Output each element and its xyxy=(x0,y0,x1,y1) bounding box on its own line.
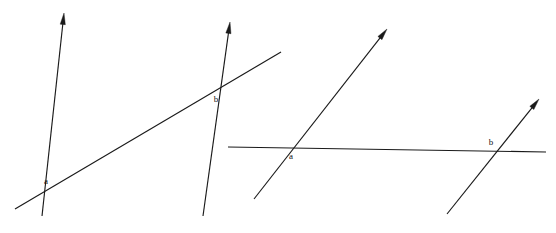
geometry-diagram: ab ab xyxy=(0,0,556,233)
left-second-ray-arrowhead-icon xyxy=(226,22,231,34)
left-first-ray-arrowhead-icon xyxy=(60,13,65,25)
right-figure-group: ab xyxy=(228,29,546,214)
right-second-ray xyxy=(447,103,536,214)
left-figure-group: ab xyxy=(15,13,281,216)
left-intersection-label-b: b xyxy=(214,94,219,104)
right-first-ray xyxy=(254,33,384,199)
left-second-ray xyxy=(203,27,229,216)
diagram-canvas: ab ab xyxy=(0,0,556,233)
right-intersection-label-a: a xyxy=(289,151,293,161)
left-intersection-label-a: a xyxy=(44,176,48,186)
right-intersection-label-b: b xyxy=(489,137,494,147)
left-transversal-segment xyxy=(15,52,281,209)
